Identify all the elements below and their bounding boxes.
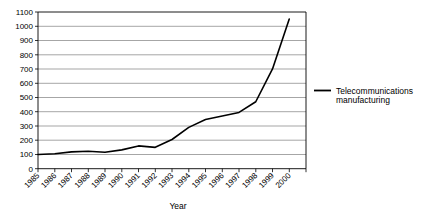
- line-chart: 1100 1000 900 800 700 600 500 400 300 20…: [0, 0, 437, 220]
- ytick-label-1000: 1000: [15, 22, 33, 31]
- ytick-label-400: 400: [20, 108, 34, 117]
- ytick-label-700: 700: [20, 65, 34, 74]
- ytick-label-200: 200: [20, 136, 34, 145]
- ytick-label-1100: 1100: [16, 8, 34, 17]
- chart-container: 1100 1000 900 800 700 600 500 400 300 20…: [0, 0, 437, 220]
- legend-label-line2: manufacturing: [336, 95, 390, 105]
- ytick-label-800: 800: [20, 51, 34, 60]
- ytick-label-500: 500: [20, 93, 34, 102]
- legend-label-line1: Telecommunications: [336, 86, 413, 96]
- x-axis-title: Year: [169, 201, 186, 211]
- chart-background: [0, 0, 437, 220]
- ytick-label-600: 600: [20, 79, 34, 88]
- ytick-label-100: 100: [20, 150, 34, 159]
- ytick-label-900: 900: [20, 36, 34, 45]
- ytick-label-300: 300: [20, 122, 34, 131]
